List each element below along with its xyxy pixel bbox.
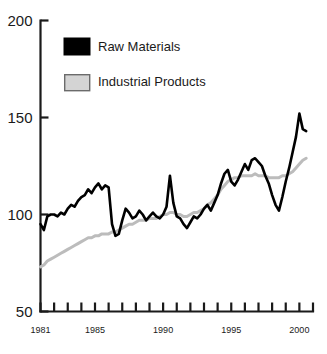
line-chart: 20015010050 19811985199019952000 Raw Mat… (0, 0, 327, 354)
x-tick-label-1990: 1990 (153, 325, 173, 335)
y-tick-label-50: 50 (16, 303, 33, 320)
y-tick-label-150: 150 (7, 109, 32, 126)
legend-swatch-raw-materials (64, 38, 90, 55)
y-tick-label-100: 100 (7, 206, 32, 223)
chart-container: 20015010050 19811985199019952000 Raw Mat… (0, 0, 327, 354)
x-axis-tick-marks (41, 303, 314, 312)
x-tick-label-1995: 1995 (221, 325, 241, 335)
x-tick-label-1981: 1981 (30, 325, 50, 335)
y-tick-label-200: 200 (7, 12, 32, 29)
legend-label-raw-materials: Raw Materials (98, 39, 181, 54)
legend-label-industrial-products: Industrial Products (98, 74, 206, 89)
x-tick-label-2000: 2000 (289, 325, 309, 335)
legend-swatch-industrial-products (65, 75, 90, 91)
x-tick-label-1985: 1985 (85, 325, 105, 335)
